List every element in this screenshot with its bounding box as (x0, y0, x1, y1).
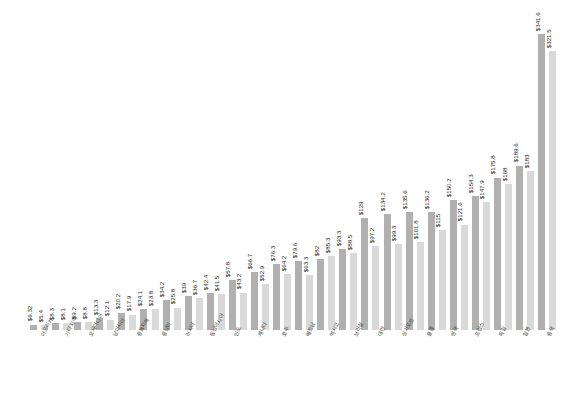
bar-value-label: $88.5 (347, 235, 353, 250)
category-slot: 호주 (269, 332, 293, 398)
category-label: 중국 (546, 326, 556, 337)
bar-slot: $88.5 (348, 18, 359, 330)
bar-value-label: $93.3 (336, 231, 342, 246)
bar-value-label: $24.1 (137, 291, 143, 306)
bar[interactable]: $8.3 (52, 323, 59, 330)
bar-value-label: $20.2 (115, 294, 121, 309)
bar-value-label: $168 (502, 168, 508, 182)
bar-slot: $13.3 (94, 18, 105, 330)
bar-value-label: $135.6 (402, 191, 408, 210)
category-slot: 홍콩 (414, 332, 438, 398)
bar[interactable]: $175.8 (494, 178, 501, 330)
bar-slot: $115 (437, 18, 448, 330)
bar-slot: $85.3 (326, 18, 337, 330)
bar-slot: $341.6 (536, 18, 547, 330)
bar-value-label: $341.6 (535, 12, 541, 31)
bar-slot: $99.3 (393, 18, 404, 330)
bar[interactable]: $82 (317, 259, 324, 330)
bar-slot: $63.3 (304, 18, 315, 330)
bar[interactable]: $23.8 (152, 309, 159, 330)
bar[interactable]: $189.6 (516, 166, 523, 330)
bar-value-label: $12.1 (104, 301, 110, 316)
bar-slot: $79.6 (293, 18, 304, 330)
bar-slot: $97.2 (370, 18, 381, 330)
bar-value-label: $99.3 (391, 225, 397, 240)
bar-slot: $168 (503, 18, 514, 330)
bar-slot: $20.2 (116, 18, 127, 330)
bar[interactable]: $136.2 (428, 212, 435, 330)
category-label: 독일 (498, 326, 508, 337)
bar-slot: $41.5 (216, 18, 227, 330)
bar[interactable]: $17.9 (129, 315, 136, 331)
category-label: 호주 (281, 326, 291, 337)
bar-value-label: $41.5 (215, 276, 221, 291)
bar[interactable]: $6.32 (30, 325, 37, 330)
bar-value-label: $34.2 (159, 282, 165, 297)
bar[interactable]: $183 (527, 171, 534, 330)
bar-slot: $66.7 (249, 18, 260, 330)
bar[interactable]: $25.8 (174, 308, 181, 330)
bar-value-label: $150.2 (447, 178, 453, 197)
bar-series-container: $6.32$5.4$8.3$8.1$9.2$8.8$13.3$12.1$20.2… (28, 18, 558, 330)
bar[interactable]: $66.7 (251, 272, 258, 330)
bar[interactable]: $121.6 (461, 225, 468, 330)
bar[interactable]: $64.2 (284, 274, 291, 330)
bar-value-label: $76.3 (270, 245, 276, 260)
bar[interactable]: $88.5 (350, 253, 357, 330)
category-slot: 오세아니아 (76, 332, 100, 398)
category-slot: 기타 지역 (52, 332, 76, 398)
category-slot: 베트남 (293, 332, 317, 398)
bar-slot: $76.3 (271, 18, 282, 330)
bar[interactable]: $36.7 (196, 298, 203, 330)
bar[interactable]: $85.3 (328, 256, 335, 330)
category-slot: 대만 (365, 332, 389, 398)
bar-slot: $135.6 (404, 18, 415, 330)
bar[interactable]: $154.3 (472, 196, 479, 330)
category-slot: 남아시아 (100, 332, 124, 398)
bar[interactable]: $147.9 (483, 202, 490, 330)
bar-slot: $64.2 (282, 18, 293, 330)
bar[interactable]: $168 (505, 184, 512, 330)
bar[interactable]: $341.6 (538, 34, 545, 330)
bar-value-label: $79.6 (292, 243, 298, 258)
bar-value-label: $85.3 (325, 238, 331, 253)
bar[interactable]: $93.3 (339, 249, 346, 330)
bar[interactable]: $43.2 (240, 293, 247, 330)
bar[interactable]: $97.2 (372, 246, 379, 330)
bar-value-label: $25.8 (170, 289, 176, 304)
bar-slot: $189.6 (514, 18, 525, 330)
bar-value-label: $82 (314, 246, 320, 256)
bar-value-label: $17.9 (126, 296, 132, 311)
bar[interactable]: $79.6 (295, 261, 302, 330)
bar-slot: $101.8 (415, 18, 426, 330)
bar-value-label: $154.3 (469, 174, 475, 193)
bar-value-label: $8.1 (60, 308, 66, 320)
bar-value-label: $97.2 (369, 227, 375, 242)
bar-value-label: $136.2 (425, 190, 431, 209)
bar-value-label: $66.7 (248, 254, 254, 269)
bar[interactable]: $321.5 (549, 51, 556, 330)
bar-value-label: $57.8 (226, 261, 232, 276)
bar[interactable]: $76.3 (273, 264, 280, 330)
bar-value-label: $121.6 (458, 203, 464, 222)
bar[interactable]: $101.8 (417, 242, 424, 330)
bar-value-label: $147.9 (480, 180, 486, 199)
bar-slot: $321.5 (547, 18, 558, 330)
bar-value-label: $39 (181, 283, 187, 293)
bar-slot: $6.32 (28, 18, 39, 330)
category-slot: 프랑스 (462, 332, 486, 398)
bar-value-label: $175.8 (491, 156, 497, 175)
bar[interactable]: $115 (439, 230, 446, 330)
bar-value-label: $321.5 (546, 29, 552, 48)
bar-value-label: $129 (358, 201, 364, 215)
bar[interactable]: $99.3 (395, 244, 402, 330)
bar-slot: $43.2 (238, 18, 249, 330)
bar-value-label: $134.2 (380, 192, 386, 211)
category-slot: 싱가포르 (389, 332, 413, 398)
bar-chart: $6.32$5.4$8.3$8.1$9.2$8.8$13.3$12.1$20.2… (0, 0, 562, 398)
category-slot: 캐나다 (245, 332, 269, 398)
bar-value-label: $63.3 (303, 257, 309, 272)
bar-value-label: $23.8 (148, 291, 154, 306)
bar-slot: $154.3 (470, 18, 481, 330)
category-slot: 아프리카 (28, 332, 52, 398)
